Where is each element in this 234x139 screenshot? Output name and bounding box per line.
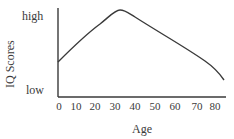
y-axis-title: IQ Scores xyxy=(4,40,16,88)
iq-age-chart: high low IQ Scores 0 10 20 30 40 50 60 7… xyxy=(0,0,234,139)
x-tick-70: 70 xyxy=(192,101,203,112)
iq-curve-line xyxy=(58,10,224,80)
x-tick-40: 40 xyxy=(130,101,141,112)
y-tick-high: high xyxy=(22,10,43,22)
x-tick-60: 60 xyxy=(170,101,181,112)
x-tick-20: 20 xyxy=(90,101,101,112)
x-tick-10: 10 xyxy=(71,101,82,112)
x-tick-0: 0 xyxy=(56,101,62,112)
x-axis-title: Age xyxy=(132,123,152,135)
y-tick-low: low xyxy=(26,84,44,96)
x-tick-30: 30 xyxy=(110,101,121,112)
x-tick-50: 50 xyxy=(150,101,161,112)
x-tick-80: 80 xyxy=(210,101,221,112)
